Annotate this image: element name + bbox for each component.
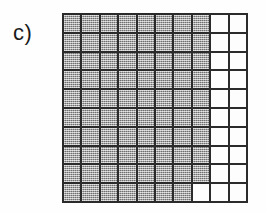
grid-cell bbox=[156, 34, 172, 51]
grid-cell bbox=[119, 184, 135, 201]
grid-cell bbox=[64, 147, 80, 164]
grid-cell bbox=[101, 90, 117, 107]
grid-cell bbox=[82, 109, 98, 126]
grid-cell bbox=[138, 53, 154, 70]
grid-cell bbox=[174, 147, 190, 164]
grid-cell bbox=[230, 109, 246, 126]
grid-cell bbox=[138, 184, 154, 201]
grid-cell bbox=[174, 53, 190, 70]
grid-cell bbox=[211, 184, 227, 201]
grid-cell bbox=[82, 128, 98, 145]
grid-cell bbox=[119, 147, 135, 164]
grid-cell bbox=[174, 34, 190, 51]
grid-cell bbox=[101, 128, 117, 145]
grid-cell bbox=[156, 128, 172, 145]
grid-container bbox=[62, 13, 248, 203]
grid-cell bbox=[193, 128, 209, 145]
grid-cell bbox=[230, 128, 246, 145]
grid-cell bbox=[138, 128, 154, 145]
grid-cell bbox=[119, 53, 135, 70]
grid-cell bbox=[64, 71, 80, 88]
grid-cell bbox=[138, 109, 154, 126]
grid-cell bbox=[82, 53, 98, 70]
grid-cell bbox=[156, 184, 172, 201]
grid-cell bbox=[156, 109, 172, 126]
grid-cell bbox=[101, 34, 117, 51]
grid-cell bbox=[230, 147, 246, 164]
grid-cell bbox=[64, 53, 80, 70]
grid-cell bbox=[82, 71, 98, 88]
grid-cell bbox=[64, 184, 80, 201]
grid-cell bbox=[211, 90, 227, 107]
grid-cell bbox=[101, 184, 117, 201]
grid-cell bbox=[101, 15, 117, 32]
grid-cell bbox=[119, 128, 135, 145]
grid-cell bbox=[211, 109, 227, 126]
grid-cell bbox=[138, 147, 154, 164]
grid-cell bbox=[119, 165, 135, 182]
grid-cell bbox=[82, 34, 98, 51]
grid-cell bbox=[138, 165, 154, 182]
grid-cell bbox=[193, 109, 209, 126]
grid-cell bbox=[82, 90, 98, 107]
grid-cell bbox=[156, 147, 172, 164]
grid-cell bbox=[156, 53, 172, 70]
grid-cell bbox=[230, 15, 246, 32]
grid-cell bbox=[193, 34, 209, 51]
grid-cell bbox=[211, 15, 227, 32]
grid-cell bbox=[174, 184, 190, 201]
grid-cell bbox=[230, 34, 246, 51]
grid-cell bbox=[211, 53, 227, 70]
grid-cell bbox=[101, 147, 117, 164]
grid-cell bbox=[193, 147, 209, 164]
grid-cell bbox=[64, 90, 80, 107]
grid-cell bbox=[230, 90, 246, 107]
grid-cell bbox=[193, 53, 209, 70]
grid-cell bbox=[230, 53, 246, 70]
grid-cell bbox=[193, 15, 209, 32]
grid-cell bbox=[230, 184, 246, 201]
grid-cell bbox=[211, 71, 227, 88]
grid-cell bbox=[138, 90, 154, 107]
grid-cell bbox=[230, 165, 246, 182]
grid-cell bbox=[174, 128, 190, 145]
grid-cell bbox=[82, 147, 98, 164]
grid-cell bbox=[138, 15, 154, 32]
grid-cell bbox=[101, 71, 117, 88]
grid-cell bbox=[174, 165, 190, 182]
grid-cell bbox=[193, 71, 209, 88]
grid-cell bbox=[156, 90, 172, 107]
grid-cell bbox=[211, 34, 227, 51]
grid-cell bbox=[211, 128, 227, 145]
grid-cell bbox=[193, 165, 209, 182]
grid-cell bbox=[82, 15, 98, 32]
grid-cell bbox=[101, 165, 117, 182]
grid-cell bbox=[211, 147, 227, 164]
grid-cell bbox=[64, 165, 80, 182]
grid-cell bbox=[64, 109, 80, 126]
grid-cell bbox=[211, 165, 227, 182]
grid-cell bbox=[64, 34, 80, 51]
grid-cell bbox=[82, 184, 98, 201]
figure-panel: c) bbox=[0, 0, 266, 213]
grid-cell bbox=[230, 71, 246, 88]
grid-cell bbox=[119, 109, 135, 126]
grid-cell bbox=[138, 71, 154, 88]
grid-cell bbox=[193, 90, 209, 107]
cell-grid bbox=[64, 15, 246, 201]
panel-label: c) bbox=[13, 21, 32, 45]
grid-cell bbox=[64, 128, 80, 145]
grid-cell bbox=[193, 184, 209, 201]
grid-cell bbox=[101, 53, 117, 70]
grid-cell bbox=[138, 34, 154, 51]
grid-cell bbox=[82, 165, 98, 182]
grid-cell bbox=[119, 71, 135, 88]
grid-cell bbox=[174, 90, 190, 107]
grid-cell bbox=[174, 71, 190, 88]
grid-cell bbox=[64, 15, 80, 32]
grid-cell bbox=[119, 90, 135, 107]
grid-cell bbox=[174, 109, 190, 126]
grid-cell bbox=[101, 109, 117, 126]
grid-cell bbox=[119, 15, 135, 32]
grid-cell bbox=[174, 15, 190, 32]
